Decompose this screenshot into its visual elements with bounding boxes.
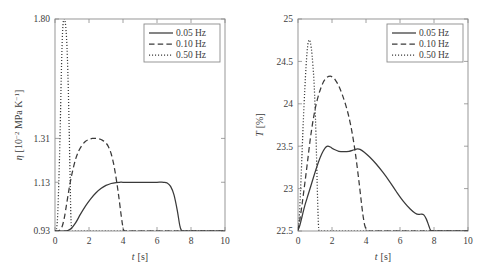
y-tick-label-right-5: 25: [284, 14, 294, 24]
y-tick-label-left-1: 1.13: [33, 178, 50, 188]
x-tick-label-left-4: 8: [189, 236, 194, 246]
x-tick-label-right-5: 10: [463, 236, 473, 246]
plot-svg-right: 024681022.52323.52424.525t[s]T[%]0.05 Hz…: [243, 0, 486, 276]
curve-left-005Hz: [55, 182, 225, 231]
x-tick-label-right-0: 0: [296, 236, 301, 246]
legend-label-right-2[interactable]: 0.50 Hz: [419, 50, 449, 60]
y-tick-label-right-0: 22.5: [276, 226, 293, 236]
y-tick-label-right-4: 24.5: [276, 57, 293, 67]
x-tick-label-left-5: 10: [220, 236, 230, 246]
x-tick-label-left-3: 6: [155, 236, 160, 246]
y-tick-label-right-3: 24: [284, 99, 294, 109]
y-tick-label-left-0: 0.93: [33, 226, 50, 236]
x-tick-label-right-3: 6: [398, 236, 403, 246]
x-tick-label-right-2: 4: [364, 236, 369, 246]
x-tick-label-left-1: 2: [87, 236, 92, 246]
x-tick-label-right-4: 8: [432, 236, 437, 246]
axes-right: 024681022.52323.52424.525t[s]T[%]0.05 Hz…: [254, 14, 473, 262]
x-tick-label-left-0: 0: [53, 236, 58, 246]
x-axis-title-left: t[s]: [132, 251, 148, 262]
plot-panel-left: 02468100.931.131.311.80t[s]η[10−2 MPa K−…: [0, 0, 243, 276]
curve-right-050Hz: [298, 40, 468, 231]
legend-label-right-1[interactable]: 0.10 Hz: [419, 39, 449, 49]
legend-label-left-1[interactable]: 0.10 Hz: [176, 39, 206, 49]
y-tick-label-right-2: 23.5: [276, 142, 293, 152]
figure-canvas: 02468100.931.131.311.80t[s]η[10−2 MPa K−…: [0, 0, 486, 276]
legend-label-left-2[interactable]: 0.50 Hz: [176, 50, 206, 60]
legend-right: 0.05 Hz0.10 Hz0.50 Hz: [387, 24, 463, 62]
y-axis-title-right: T[%]: [254, 113, 265, 137]
y-tick-label-left-2: 1.31: [33, 134, 50, 144]
legend-left: 0.05 Hz0.10 Hz0.50 Hz: [144, 24, 220, 62]
y-tick-label-right-1: 23: [284, 184, 294, 194]
x-axis-title-right: t[s]: [375, 251, 391, 262]
plot-panel-right: 024681022.52323.52424.525t[s]T[%]0.05 Hz…: [243, 0, 486, 276]
curves-right: [298, 40, 468, 231]
x-tick-label-left-2: 4: [121, 236, 126, 246]
plot-svg-left: 02468100.931.131.311.80t[s]η[10−2 MPa K−…: [0, 0, 243, 276]
curve-left-010Hz: [55, 138, 225, 231]
axes-left: 02468100.931.131.311.80t[s]η[10−2 MPa K−…: [13, 14, 230, 262]
y-tick-label-left-3: 1.80: [33, 14, 50, 24]
y-axis-title-left: η[10−2 MPa K−1]: [13, 90, 24, 161]
legend-label-right-0[interactable]: 0.05 Hz: [419, 28, 449, 38]
curve-right-010Hz: [298, 76, 468, 231]
x-tick-label-right-1: 2: [330, 236, 335, 246]
curve-right-005Hz: [298, 146, 468, 231]
legend-label-left-0[interactable]: 0.05 Hz: [176, 28, 206, 38]
